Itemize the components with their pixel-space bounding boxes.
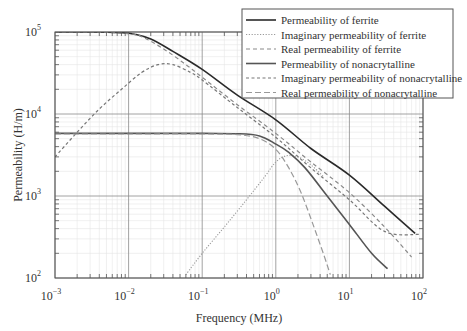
y-tick-label: 104 bbox=[25, 105, 41, 121]
legend-label: Real permeability of ferrite bbox=[281, 43, 401, 55]
y-axis-tick-labels: 102103104105 bbox=[25, 23, 41, 285]
legend-label: Real permeability of nonacrytalline bbox=[281, 87, 437, 99]
x-tick-label: 101 bbox=[337, 287, 353, 303]
series-line-2 bbox=[186, 155, 324, 274]
x-tick-label: 100 bbox=[264, 287, 280, 303]
y-tick-label: 105 bbox=[25, 23, 41, 39]
legend: Permeability of ferriteImaginary permeab… bbox=[242, 9, 462, 99]
x-tick-label: 102 bbox=[411, 287, 427, 303]
x-tick-label: 10−3 bbox=[41, 287, 62, 303]
legend-label: Permeability of ferrite bbox=[281, 14, 379, 26]
x-tick-label: 10−2 bbox=[114, 287, 135, 303]
y-axis-title: Permeability (H/m) bbox=[11, 108, 25, 202]
y-tick-label: 102 bbox=[25, 269, 41, 285]
legend-label: Permeability of nonacrytalline bbox=[281, 58, 415, 70]
legend-label: Imaginary permeability of ferrite bbox=[281, 29, 426, 41]
x-axis-title: Frequency (MHz) bbox=[196, 311, 282, 325]
legend-label: Imaginary permeability of nonacrytalline bbox=[281, 72, 462, 84]
x-axis-tick-labels: 10−310−210−1100101102 bbox=[41, 287, 427, 303]
permeability-chart: 10−310−210−1100101102 102103104105 Frequ… bbox=[0, 0, 467, 331]
y-tick-label: 103 bbox=[25, 187, 41, 203]
x-tick-label: 10−1 bbox=[188, 287, 209, 303]
